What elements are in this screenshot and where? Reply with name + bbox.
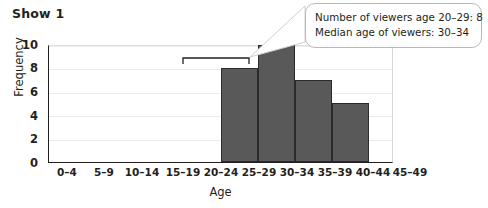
x-tick-5-9: 5–9 bbox=[94, 166, 114, 178]
plot-area bbox=[48, 45, 393, 163]
x-axis-title: Age bbox=[48, 185, 393, 199]
y-tick-4: 4 bbox=[30, 109, 38, 123]
x-tick-25-29: 25–29 bbox=[242, 166, 276, 178]
x-axis-ticks: 0–4 5–9 10–14 15–19 20–24 25–29 30–34 35… bbox=[48, 166, 393, 182]
callout-box: Number of viewers age 20–29: 8 Median ag… bbox=[305, 3, 482, 48]
bars-group bbox=[49, 46, 392, 162]
y-tick-2: 2 bbox=[30, 132, 38, 146]
callout-line-2: Median age of viewers: 30–34 bbox=[315, 25, 473, 40]
bar-40-44 bbox=[332, 103, 369, 162]
bar-25-29 bbox=[221, 68, 258, 162]
x-tick-15-19: 15–19 bbox=[166, 166, 200, 178]
x-tick-20-24: 20–24 bbox=[204, 166, 238, 178]
x-tick-40-44: 40–44 bbox=[356, 166, 390, 178]
x-tick-45-49: 45–49 bbox=[393, 166, 427, 178]
y-axis-title: Frequency bbox=[12, 12, 26, 122]
y-tick-0: 0 bbox=[30, 156, 38, 170]
x-tick-35-39: 35–39 bbox=[318, 166, 352, 178]
x-tick-10-14: 10–14 bbox=[125, 166, 159, 178]
bar-35-39 bbox=[295, 80, 332, 162]
bar-30-34 bbox=[258, 45, 295, 162]
y-tick-6: 6 bbox=[30, 85, 38, 99]
callout-line-1: Number of viewers age 20–29: 8 bbox=[315, 10, 473, 25]
y-tick-8: 8 bbox=[30, 61, 38, 75]
x-tick-0-4: 0–4 bbox=[57, 166, 77, 178]
x-tick-30-34: 30–34 bbox=[280, 166, 314, 178]
